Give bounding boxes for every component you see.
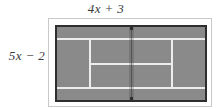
figure-canvas: 4x + 3 5x − 2 <box>0 0 222 109</box>
photo-frame <box>48 18 212 107</box>
tennis-court-image <box>55 25 207 102</box>
top-dimension-label: 4x + 3 <box>0 1 212 17</box>
left-dimension-label: 5x − 2 <box>4 48 50 64</box>
net-post-bottom-icon <box>130 97 133 100</box>
net-post-top-icon <box>130 27 133 30</box>
net-icon <box>131 27 132 100</box>
